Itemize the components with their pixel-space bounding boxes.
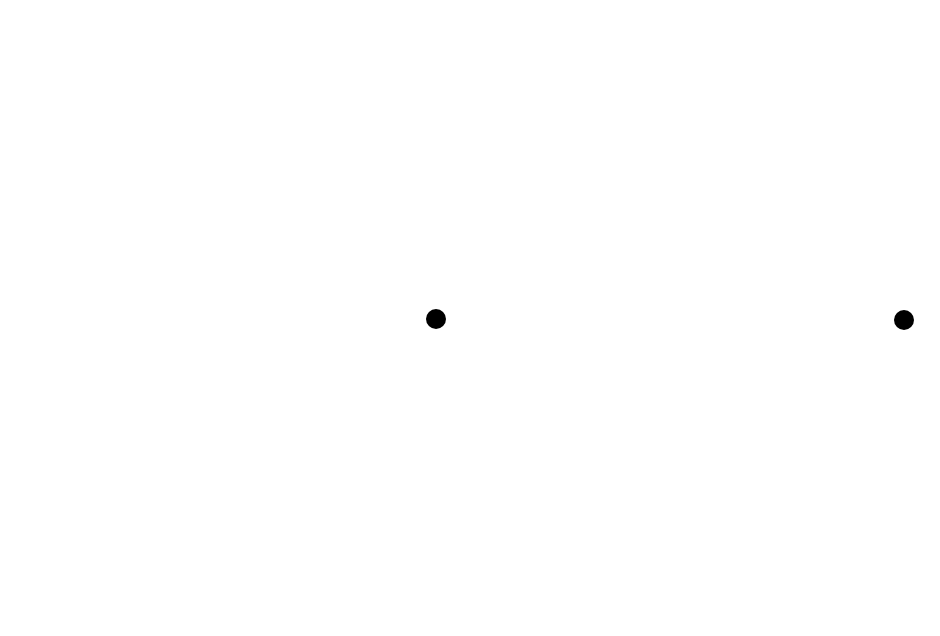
dot-marker-left (426, 309, 446, 329)
dot-marker-right (894, 310, 914, 330)
blank-page (0, 0, 940, 636)
